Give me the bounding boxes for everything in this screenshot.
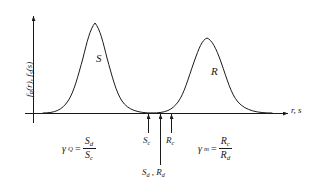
- gamma-m-symbol: γ: [198, 144, 202, 154]
- tick-label-Sd-Rd: Sd , Rd: [142, 168, 165, 178]
- figure-canvas: [0, 0, 317, 192]
- tick-label-Rd-sub: d: [162, 172, 165, 178]
- gamma-m-fraction: Rc Rd: [219, 136, 233, 162]
- gamma-Q-den-sub: c: [90, 154, 93, 161]
- gamma-Q-sub: Q: [68, 146, 73, 153]
- gamma-m-equals: =: [211, 144, 217, 154]
- gamma-m-den-sub: d: [227, 154, 230, 161]
- gamma-Q-symbol: γ: [62, 144, 66, 154]
- gamma-Q-fraction: Sd Sc: [83, 136, 96, 162]
- partial-safety-factor-diagram: fR(r), fS(s) S R r, s Sc Rc: [0, 0, 317, 192]
- tick-label-Sc-sub: c: [148, 140, 151, 146]
- gamma-m-numerator: Rc: [219, 136, 232, 148]
- gamma-Q-equals: =: [75, 144, 81, 154]
- equation-gamma-Q: γQ = Sd Sc: [62, 136, 96, 162]
- equation-gamma-m: γm = Rc Rd: [198, 136, 232, 162]
- tick-label-Rc-sub: c: [172, 140, 175, 146]
- gamma-Q-denominator: Sc: [83, 149, 95, 161]
- curve-S: [43, 23, 152, 113]
- gamma-m-num-sub: c: [227, 140, 230, 147]
- gamma-m-sub: m: [204, 146, 209, 153]
- curve-label-S: S: [96, 53, 102, 64]
- tick-label-Sc: Sc: [143, 136, 150, 146]
- x-axis-label: r, s: [291, 106, 302, 115]
- tick-label-Rc: Rc: [166, 136, 174, 146]
- gamma-m-denominator: Rd: [219, 149, 233, 161]
- gamma-Q-num-sub: d: [90, 140, 93, 147]
- gamma-Q-numerator: Sd: [83, 136, 95, 148]
- curve-label-R: R: [211, 66, 218, 77]
